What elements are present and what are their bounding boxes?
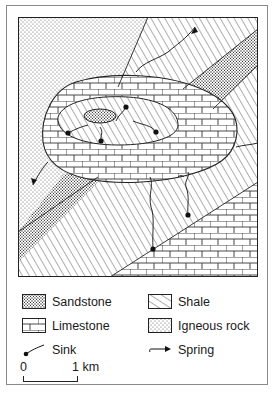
geological-map bbox=[18, 17, 258, 277]
spring-arrow-icon bbox=[148, 342, 172, 357]
sink-icon bbox=[22, 342, 46, 357]
legend-label-shale: Shale bbox=[178, 295, 210, 309]
legend-label-sandstone: Sandstone bbox=[52, 295, 112, 309]
legend-item-igneous: Igneous rock bbox=[148, 318, 250, 333]
legend-label-spring: Spring bbox=[178, 343, 214, 357]
scale-bar: 0 1 km bbox=[20, 360, 80, 384]
legend-item-sink: Sink bbox=[22, 342, 76, 357]
scale-start-label: 0 bbox=[20, 360, 27, 374]
limestone-swatch bbox=[22, 318, 46, 333]
legend-item-limestone: Limestone bbox=[22, 318, 110, 333]
scale-bar-line bbox=[23, 376, 78, 382]
legend-label-igneous: Igneous rock bbox=[178, 319, 250, 333]
shale-inlier bbox=[58, 97, 178, 145]
legend-item-sandstone: Sandstone bbox=[22, 294, 112, 309]
legend-item-shale: Shale bbox=[148, 294, 210, 309]
igneous-swatch bbox=[148, 318, 172, 333]
legend-label-sink: Sink bbox=[52, 343, 76, 357]
legend-item-spring: Spring bbox=[148, 342, 214, 357]
sandstone-lens bbox=[84, 109, 116, 123]
legend-label-limestone: Limestone bbox=[52, 319, 110, 333]
scale-end-label: 1 km bbox=[72, 360, 99, 374]
sandstone-swatch bbox=[22, 294, 46, 309]
shale-swatch bbox=[148, 294, 172, 309]
